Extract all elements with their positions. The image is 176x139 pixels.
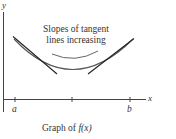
tick-label-a: a (12, 104, 17, 114)
y-axis-label: y (2, 0, 6, 10)
annotation-line-2: lines increasing (36, 35, 116, 46)
increasing-arc-icon (52, 51, 98, 58)
tangent-slope-annotation: Slopes of tangent lines increasing (36, 24, 116, 46)
caption-function: f(x) (78, 123, 91, 133)
caption-prefix: Graph of (42, 123, 78, 133)
x-axis-label: x (148, 93, 152, 103)
concave-up-graph (0, 0, 176, 139)
tick-label-b: b (127, 104, 132, 114)
graph-caption: Graph of f(x) (42, 123, 92, 133)
annotation-line-1: Slopes of tangent (36, 24, 116, 35)
